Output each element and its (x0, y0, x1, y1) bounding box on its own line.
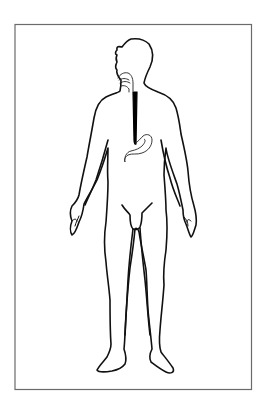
esophagus (133, 92, 137, 144)
groin-outline (122, 203, 152, 229)
right-leg-inner-line (140, 228, 150, 335)
human-body-diagram (0, 0, 264, 403)
stomach (125, 135, 152, 162)
diagram-canvas (0, 0, 264, 403)
frame-border (15, 25, 252, 390)
